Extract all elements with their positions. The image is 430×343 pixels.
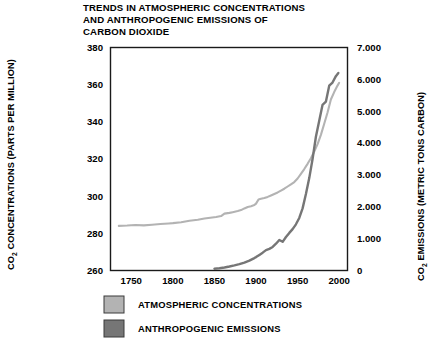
x-tick-1750: 1750 [121, 275, 142, 286]
right-axis-title-prefix: CO [416, 267, 426, 281]
right-tick-3.000: 3.000 [357, 169, 381, 180]
right-tick-2.000: 2.000 [357, 201, 381, 212]
chart-title-line-3: CARBON DIOXIDE [83, 26, 170, 37]
x-tick-1900: 1900 [245, 275, 266, 286]
svg-text:CO2 EMISSIONS (METRIC TONS CAR: CO2 EMISSIONS (METRIC TONS CARBON) [416, 92, 428, 281]
right-tick-1.000: 1.000 [357, 233, 381, 244]
chart-title-line-2: AND ANTHROPOGENIC EMISSIONS OF [83, 14, 268, 25]
trends-co2-chart: TRENDS IN ATMOSPHERIC CONCENTRATIONS AND… [0, 0, 430, 343]
x-tick-1850: 1850 [204, 275, 225, 286]
left-tick-340: 340 [87, 116, 103, 127]
svg-text:CO2 CONCENTRATIONS (PARTS PER: CO2 CONCENTRATIONS (PARTS PER MILLION) [6, 59, 18, 270]
right-axis-title-suffix: EMISSIONS (METRIC TONS CARBON) [416, 92, 426, 263]
legend-swatch-anthropogenic-emissions [104, 320, 124, 337]
chart-figure: TRENDS IN ATMOSPHERIC CONCENTRATIONS AND… [0, 0, 430, 343]
left-tick-260: 260 [87, 265, 103, 276]
right-tick-4.000: 4.000 [357, 137, 381, 148]
left-axis-title-prefix: CO [6, 256, 16, 270]
right-tick-0: 0 [357, 265, 362, 276]
legend-swatch-atmospheric-concentrations [104, 296, 124, 313]
right-tick-5.000: 5.000 [357, 106, 381, 117]
left-axis-title-suffix: CONCENTRATIONS (PARTS PER MILLION) [6, 59, 16, 252]
legend-label-anthropogenic-emissions: ANTHROPOGENIC EMISSIONS [138, 323, 281, 334]
left-axis-title: CO2 CONCENTRATIONS (PARTS PER MILLION) [6, 59, 18, 270]
right-tick-6.000: 6.000 [357, 74, 381, 85]
x-tick-1950: 1950 [287, 275, 308, 286]
left-tick-300: 300 [87, 191, 103, 202]
right-tick-7.000: 7.000 [357, 42, 381, 53]
left-tick-320: 320 [87, 153, 103, 164]
left-tick-360: 360 [87, 79, 103, 90]
left-tick-280: 280 [87, 228, 103, 239]
chart-title-line-1: TRENDS IN ATMOSPHERIC CONCENTRATIONS [83, 2, 306, 13]
x-tick-2000: 2000 [329, 275, 350, 286]
right-axis-title: CO2 EMISSIONS (METRIC TONS CARBON) [416, 92, 428, 281]
x-tick-1800: 1800 [162, 275, 183, 286]
left-tick-380: 380 [87, 42, 103, 53]
legend-label-atmospheric-concentrations: ATMOSPHERIC CONCENTRATIONS [138, 299, 302, 310]
